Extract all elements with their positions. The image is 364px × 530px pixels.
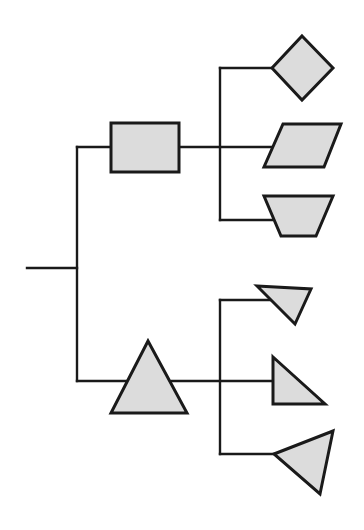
diamond-node	[272, 36, 333, 100]
big-triangle-node	[111, 341, 187, 413]
trapezoid-node	[264, 196, 333, 236]
parallelogram-node	[264, 124, 341, 167]
shape-tree-diagram	[0, 0, 364, 530]
rectangle-node	[111, 123, 179, 172]
down-triangle-node	[257, 286, 311, 324]
left-triangle-node	[274, 431, 333, 494]
right-angle-triangle-node	[273, 357, 325, 404]
